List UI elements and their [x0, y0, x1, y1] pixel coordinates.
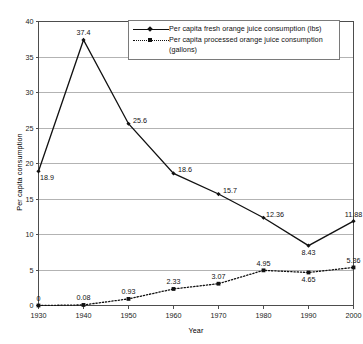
x-tick-label: 1980: [256, 311, 272, 320]
y-tick-label: 30: [26, 88, 34, 97]
data-point-label: 8.43: [302, 248, 316, 257]
data-point-label: 15.7: [223, 186, 237, 195]
data-point-label: 25.6: [133, 116, 147, 125]
data-point-marker: [262, 268, 266, 272]
data-point-label: 3.07: [212, 272, 226, 281]
data-point-label: 4.95: [257, 259, 271, 268]
data-point-marker: [217, 282, 221, 286]
legend-item-processed: Per capita processed orange juice consum…: [133, 35, 335, 54]
legend-label-processed: Per capita processed orange juice consum…: [169, 35, 335, 54]
data-point-marker: [82, 303, 86, 307]
legend-key-solid-line-icon: [133, 25, 169, 34]
y-tick-label: 0: [30, 301, 34, 310]
data-point-marker: [172, 287, 176, 291]
data-point-label: 12.36: [266, 210, 284, 219]
data-series: [36, 38, 355, 308]
x-tick-label: 1930: [31, 311, 47, 320]
data-point-label: 18.9: [40, 173, 54, 182]
legend-item-fresh: Per capita fresh orange juice consumptio…: [133, 24, 335, 34]
data-point-marker: [37, 304, 41, 308]
x-tick-label: 1950: [121, 311, 137, 320]
data-point-label: 11.88: [345, 210, 362, 219]
y-tick-label: 10: [26, 230, 34, 239]
x-tick-label: 1960: [166, 311, 182, 320]
data-point-label: 18.6: [178, 165, 192, 174]
x-tick-labels: 19301940195019601970198019902000: [31, 311, 362, 320]
x-tick-label: 1990: [301, 311, 317, 320]
legend-key-dotted-line-icon: [133, 36, 169, 45]
data-point-label: 5.36: [347, 256, 361, 265]
series-line-fresh: [39, 40, 354, 246]
legend: Per capita fresh orange juice consumptio…: [128, 20, 340, 60]
y-tick-label: 15: [26, 195, 34, 204]
axis-ticks: [36, 22, 354, 310]
x-tick-label: 1940: [76, 311, 92, 320]
y-tick-label: 25: [26, 124, 34, 133]
y-tick-label: 40: [26, 17, 34, 26]
data-point-marker: [352, 266, 356, 270]
y-tick-label: 5: [30, 266, 34, 275]
legend-label-fresh: Per capita fresh orange juice consumptio…: [169, 24, 322, 34]
data-point-label: 37.4: [77, 28, 91, 37]
data-point-label: 0.08: [77, 293, 91, 302]
data-point-marker: [127, 297, 131, 301]
data-point-labels: 18.937.425.618.615.712.368.4311.8800.080…: [37, 28, 363, 303]
data-point-label: 0: [37, 294, 41, 303]
data-point-label: 0.93: [122, 287, 136, 296]
x-tick-label: 2000: [346, 311, 362, 320]
data-point-label: 2.33: [167, 277, 181, 286]
x-tick-label: 1970: [211, 311, 227, 320]
y-tick-label: 20: [26, 159, 34, 168]
data-point-label: 4.65: [302, 275, 316, 284]
y-tick-labels: 0510152025303540: [26, 17, 34, 310]
data-point-marker: [307, 271, 311, 275]
chart-container: Per capita consumption Year 051015202530…: [0, 0, 363, 344]
y-tick-label: 35: [26, 53, 34, 62]
